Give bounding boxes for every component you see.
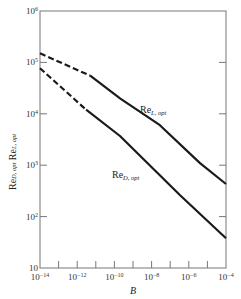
y-axis-title: ReD, opt ReL, opt	[7, 134, 18, 190]
x-tick-label: 10−12	[68, 272, 86, 282]
y-tick-label: 103	[26, 160, 38, 170]
curve-labels: ReL, optReD, opt	[112, 104, 166, 181]
tick-labels: 1010210310410510610−1410−1210−1010−810−6…	[26, 6, 234, 282]
y-tick-label: 102	[26, 212, 38, 222]
y-tick-label: 105	[26, 57, 38, 67]
curve-solid-1	[86, 110, 226, 239]
x-axis-title: B	[130, 285, 136, 296]
y-tick-label: 104	[26, 109, 38, 119]
curve-dashed-0	[40, 53, 90, 75]
plot-frame	[40, 11, 226, 268]
x-tick-label: 10−8	[144, 272, 159, 282]
curve-dashed-1	[40, 68, 86, 110]
plot-border	[40, 11, 226, 268]
curve-label-0: ReL, opt	[140, 104, 166, 116]
x-tick-label: 10−10	[105, 272, 123, 282]
curves	[40, 53, 226, 238]
y-tick-label: 106	[26, 6, 38, 16]
x-tick-label: 10−6	[181, 272, 196, 282]
chart-svg: 1010210310410510610−1410−1210−1010−810−6…	[0, 0, 241, 299]
x-tick-label: 10−14	[31, 272, 49, 282]
curve-label-1: ReD, opt	[112, 169, 140, 181]
x-tick-label: 10−4	[218, 272, 233, 282]
